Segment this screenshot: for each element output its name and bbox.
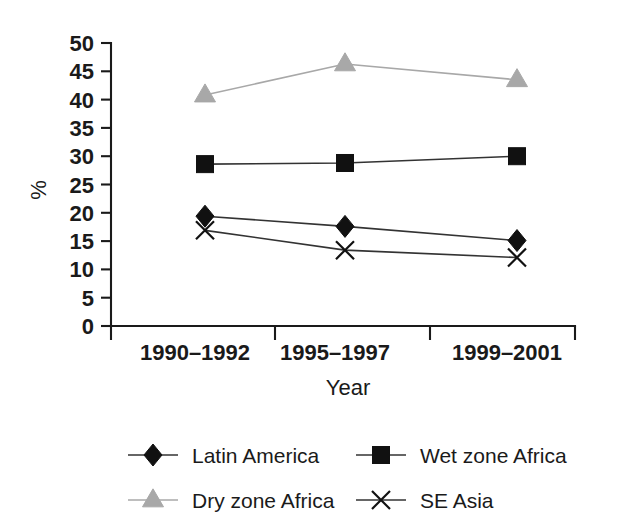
y-tick-label: 35 xyxy=(70,116,94,141)
data-point-triangle-marker-legend xyxy=(143,489,164,507)
data-point-diamond-marker-legend xyxy=(144,444,162,466)
series-line xyxy=(205,64,517,95)
y-tick-label: 45 xyxy=(70,59,94,84)
legend-label: Dry zone Africa xyxy=(192,489,335,512)
y-tick-label: 10 xyxy=(70,257,94,282)
data-point-square-marker-legend xyxy=(373,447,390,464)
data-point-triangle-marker xyxy=(335,53,356,71)
y-tick-label: 40 xyxy=(70,88,94,113)
legend-label: Wet zone Africa xyxy=(420,444,567,467)
svg-text:%: % xyxy=(26,180,51,200)
data-point-triangle-marker xyxy=(507,69,528,87)
x-axis-title: Year xyxy=(326,375,370,400)
series-line xyxy=(205,230,517,257)
data-point-square-marker xyxy=(509,148,526,165)
y-tick-label: 25 xyxy=(70,173,94,198)
legend-item-wet-zone-africa[interactable]: Wet zone Africa xyxy=(356,444,567,467)
svg-text:Year: Year xyxy=(326,375,370,400)
data-point-diamond-marker xyxy=(336,215,354,237)
y-tick-group: 05101520253035404550 xyxy=(70,31,111,339)
series-line xyxy=(205,156,517,164)
y-tick-label: 50 xyxy=(70,31,94,56)
y-axis-label: % xyxy=(26,180,51,200)
legend-item-latin-america[interactable]: Latin America xyxy=(128,444,320,467)
legend-label: SE Asia xyxy=(420,489,494,512)
y-tick-label: 0 xyxy=(82,314,94,339)
legend-item-se-asia[interactable]: SE Asia xyxy=(356,489,494,512)
data-point-square-marker xyxy=(197,156,214,173)
y-axis: 05101520253035404550 xyxy=(70,31,111,339)
y-tick-label: 15 xyxy=(70,229,94,254)
x-tick-label: 1999–2001 xyxy=(452,340,562,365)
x-axis xyxy=(111,326,575,340)
series-group xyxy=(195,53,528,267)
y-tick-label: 5 xyxy=(82,286,94,311)
chart-container: % 05101520253035404550 1990–19921995–199… xyxy=(0,0,631,530)
line-chart: % 05101520253035404550 1990–19921995–199… xyxy=(0,0,631,530)
series-latin-america xyxy=(196,205,526,251)
x-tick-group xyxy=(111,326,575,340)
data-point-diamond-marker xyxy=(508,230,526,252)
x-tick-label-group: 1990–19921995–19971999–2001 xyxy=(140,340,562,365)
data-point-square-marker xyxy=(337,154,354,171)
series-wet-zone-africa xyxy=(197,148,526,173)
series-dry-zone-africa xyxy=(195,53,528,102)
x-tick-label: 1990–1992 xyxy=(140,340,250,365)
chart-legend: Latin AmericaWet zone AfricaDry zone Afr… xyxy=(128,444,567,512)
y-tick-label: 30 xyxy=(70,144,94,169)
y-tick-label: 20 xyxy=(70,201,94,226)
x-tick-label: 1995–1997 xyxy=(280,340,390,365)
legend-label: Latin America xyxy=(192,444,320,467)
legend-item-dry-zone-africa[interactable]: Dry zone Africa xyxy=(128,489,335,512)
